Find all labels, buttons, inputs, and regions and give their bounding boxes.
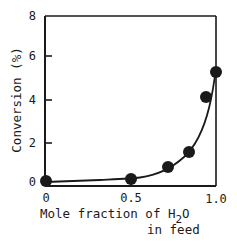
x-axis-label-line2: in feed (147, 222, 200, 237)
x-axis-label-suffix: O (182, 206, 190, 221)
conversion-chart: 8 6 4 2 0 0 0.5 1.0 Conversion (%) Mole … (0, 0, 237, 246)
data-point-1 (40, 175, 52, 187)
y-tick-label-4: 4 (29, 93, 36, 107)
data-point-2 (125, 173, 137, 185)
x-axis-label-prefix: Mole fraction of H (40, 206, 175, 221)
data-point-3 (162, 161, 174, 173)
x-tick-label-0: 0 (42, 191, 49, 205)
data-point-5 (200, 91, 212, 103)
data-point-6 (210, 66, 222, 78)
fitted-curve (46, 68, 216, 182)
data-point-4 (183, 146, 195, 158)
y-tick-label-2: 2 (29, 136, 36, 150)
x-tick-label-1.0: 1.0 (205, 192, 227, 206)
plot-frame (45, 16, 216, 186)
x-tick-label-0.5: 0.5 (120, 191, 142, 205)
y-ticks (45, 56, 52, 143)
data-points (40, 66, 222, 187)
y-tick-label-0: 0 (29, 175, 36, 189)
y-axis-label: Conversion (%) (9, 47, 24, 152)
y-tick-label-8: 8 (29, 9, 36, 23)
y-tick-label-6: 6 (29, 49, 36, 63)
